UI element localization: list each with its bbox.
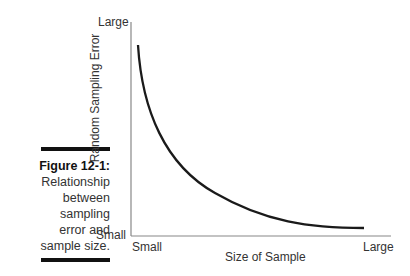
error-curve bbox=[138, 45, 364, 228]
chart-plot: Random Sampling Error bbox=[0, 0, 410, 276]
y-tick-large: Large bbox=[98, 15, 129, 29]
x-axis-title: Size of Sample bbox=[225, 250, 306, 264]
x-tick-small: Small bbox=[132, 240, 162, 254]
x-tick-large: Large bbox=[363, 240, 394, 254]
y-axis-title: Random Sampling Error bbox=[88, 34, 102, 163]
y-tick-small: Small bbox=[96, 228, 126, 242]
